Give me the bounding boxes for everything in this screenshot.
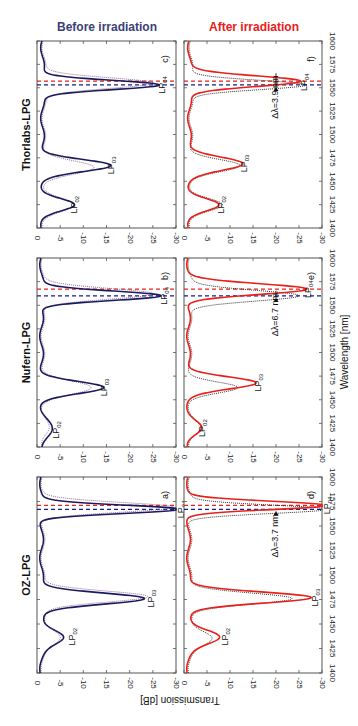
- panel-e: 0-5-10-15-20-25-301400142514501475150015…: [180, 249, 337, 463]
- panel-letter: a): [160, 491, 170, 499]
- y-tick-label: -25: [149, 451, 158, 463]
- y-tick-label: -20: [272, 451, 281, 463]
- x-tick-label: 1425: [328, 640, 337, 658]
- y-tick-label: -20: [126, 451, 135, 463]
- x-tick-label: 1525: [328, 542, 337, 560]
- y-tick-label: 0: [180, 236, 189, 241]
- x-tick-label: 1550: [328, 296, 337, 314]
- x-tick-label: 1575: [328, 55, 337, 73]
- panel-c: 0-5-10-15-20-25-30LP02LP03LP04c)Thorlabs…: [20, 41, 181, 244]
- panel-letter: f): [306, 56, 316, 62]
- x-tick-label: 1450: [328, 172, 337, 190]
- y-tick-label: -25: [295, 677, 304, 689]
- y-tick-label: -5: [56, 679, 65, 687]
- x-tick-label: 1400: [328, 219, 337, 237]
- y-tick-label: -25: [295, 451, 304, 463]
- x-tick-label: 1575: [328, 273, 337, 291]
- x-tick-label: 1600: [328, 249, 337, 267]
- x-tick-label: 1550: [328, 79, 337, 97]
- x-tick-label: 1525: [328, 320, 337, 338]
- x-tick-label: 1525: [328, 102, 337, 120]
- x-axis-label: Wavelength [nm]: [339, 314, 350, 389]
- y-tick-label: -10: [79, 451, 88, 463]
- y-tick-label: -20: [272, 677, 281, 689]
- x-tick-label: 1600: [328, 468, 337, 486]
- y-axis-label: Transmission [dB]: [140, 695, 220, 706]
- x-tick-label: 1450: [328, 391, 337, 409]
- y-tick-label: -10: [226, 451, 235, 463]
- x-tick-label: 1425: [328, 414, 337, 432]
- x-tick-label: 1500: [328, 566, 337, 584]
- y-tick-label: -15: [249, 232, 258, 244]
- x-tick-label: 1550: [328, 517, 337, 535]
- y-tick-label: -5: [56, 453, 65, 461]
- y-tick-label: -15: [102, 232, 111, 244]
- x-tick-label: 1400: [328, 664, 337, 682]
- y-tick-label: -5: [203, 679, 212, 687]
- y-tick-label: -30: [172, 232, 181, 244]
- y-tick-label: -30: [172, 451, 181, 463]
- shift-annotation: Δλ=3.9 nm: [270, 75, 280, 118]
- row-title: OZ-LPG: [20, 554, 32, 596]
- figure-canvas: 0-5-10-15-20-25-30LP02LP03LP04c)Thorlabs…: [0, 0, 358, 726]
- x-tick-label: 1475: [328, 367, 337, 385]
- panel-letter: c): [160, 55, 170, 63]
- y-tick-label: 0: [33, 455, 42, 460]
- y-tick-label: -25: [295, 232, 304, 244]
- y-tick-label: -25: [149, 677, 158, 689]
- panel-letter: d): [306, 491, 316, 499]
- y-tick-label: -30: [318, 232, 327, 244]
- y-tick-label: 0: [180, 455, 189, 460]
- panel-letter: e): [306, 272, 316, 280]
- x-tick-label: 1450: [328, 615, 337, 633]
- x-tick-label: 1425: [328, 196, 337, 214]
- y-tick-label: 0: [180, 681, 189, 686]
- y-tick-label: -20: [272, 232, 281, 244]
- x-tick-label: 1500: [328, 344, 337, 362]
- y-tick-label: -15: [249, 677, 258, 689]
- row-title: Thorlabs-LPG: [20, 98, 32, 171]
- x-tick-label: 1475: [328, 591, 337, 609]
- y-tick-label: -20: [126, 232, 135, 244]
- y-tick-label: -10: [79, 232, 88, 244]
- row-title: Nufern-LPG: [20, 322, 32, 384]
- y-tick-label: -5: [56, 234, 65, 242]
- y-tick-label: -25: [149, 232, 158, 244]
- y-tick-label: 0: [33, 236, 42, 241]
- y-tick-label: -30: [318, 677, 327, 689]
- panel-a: 0-5-10-15-20-25-30LP02LP03LP04a)OZ-LPG: [20, 477, 186, 689]
- y-tick-label: -15: [102, 451, 111, 463]
- panel-f: 0-5-10-15-20-25-301400142514501475150015…: [180, 32, 337, 244]
- mode-label: LP04: [322, 496, 332, 514]
- y-tick-label: -10: [79, 677, 88, 689]
- y-tick-label: -20: [126, 677, 135, 689]
- panel-letter: b): [160, 272, 170, 280]
- y-tick-label: -5: [203, 453, 212, 461]
- shift-annotation: Δλ=3.7 nm: [270, 514, 280, 557]
- y-tick-label: -10: [226, 677, 235, 689]
- x-tick-label: 1600: [328, 32, 337, 50]
- x-tick-label: 1475: [328, 149, 337, 167]
- y-tick-label: 0: [33, 681, 42, 686]
- panel-d: 0-5-10-15-20-25-301400142514501475150015…: [180, 468, 337, 689]
- y-tick-label: -15: [102, 677, 111, 689]
- y-tick-label: -5: [203, 234, 212, 242]
- y-tick-label: -30: [318, 451, 327, 463]
- y-tick-label: -10: [226, 232, 235, 244]
- y-tick-label: -30: [172, 677, 181, 689]
- panel-b: 0-5-10-15-20-25-30LP02LP03LP04b)Nufern-L…: [20, 258, 181, 463]
- x-tick-label: 1400: [328, 438, 337, 456]
- y-tick-label: -15: [249, 451, 258, 463]
- x-tick-label: 1500: [328, 126, 337, 144]
